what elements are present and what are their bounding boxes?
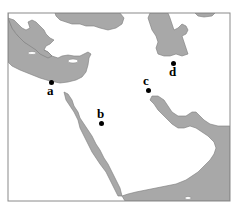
marker-c-dot	[146, 88, 151, 93]
marker-a-label: a	[47, 84, 54, 97]
island-cyprus	[68, 59, 78, 63]
marker-c-label: c	[143, 74, 149, 87]
island-socotra	[185, 197, 191, 200]
map-canvas	[0, 0, 236, 208]
marker-b-dot	[99, 121, 104, 126]
marker-b-label: b	[97, 107, 104, 120]
island-crete	[28, 52, 36, 55]
marker-d-label: d	[169, 65, 176, 78]
map-figure: a b c d	[0, 0, 236, 208]
